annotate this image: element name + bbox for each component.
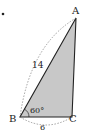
side-bc-length-label: 6 (40, 123, 45, 130)
bullet-dot (2, 13, 5, 16)
side-ab-length-label: 14 (32, 60, 44, 70)
vertex-label-b: B (9, 113, 16, 124)
triangle-abc (20, 18, 76, 117)
side-bc-dimension-arc (20, 117, 72, 125)
angle-b-label: 60° (30, 106, 44, 115)
vertex-label-a: A (71, 5, 80, 16)
triangle-diagram: A B C 14 6 60° (0, 0, 85, 130)
vertex-label-c: C (69, 113, 77, 124)
